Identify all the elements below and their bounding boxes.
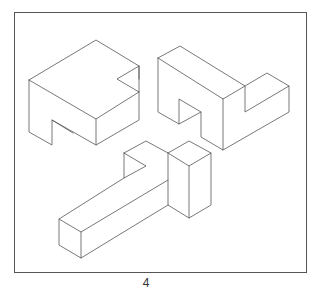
notched-block-shape — [29, 40, 139, 145]
stepped-block-shape — [158, 46, 289, 150]
page-number: 4 — [0, 276, 292, 290]
isometric-figure — [0, 0, 314, 292]
t-beam-shape — [59, 141, 211, 258]
figure-frame — [15, 13, 307, 273]
